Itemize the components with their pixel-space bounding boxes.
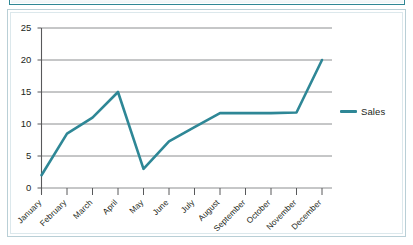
y-axis-ticks — [38, 28, 42, 188]
legend-line-swatch-sales — [340, 110, 357, 113]
gridlines — [42, 28, 333, 188]
y-axis-tick-label: 15 — [12, 86, 32, 97]
y-axis-tick-label: 5 — [12, 150, 32, 161]
series-lines — [42, 60, 323, 175]
series-line-sales — [42, 60, 323, 175]
x-axis-ticks — [42, 188, 323, 195]
y-axis-tick-label: 0 — [12, 182, 32, 193]
chart-legend: Sales — [340, 106, 385, 117]
chart-screenshot: 0510152025 JanuaryFebruaryMarchAprilMayJ… — [0, 0, 413, 245]
legend-label-sales: Sales — [361, 106, 385, 117]
y-axis-tick-label: 25 — [12, 22, 32, 33]
y-axis-tick-label: 20 — [12, 54, 32, 65]
y-axis-tick-label: 10 — [12, 118, 32, 129]
